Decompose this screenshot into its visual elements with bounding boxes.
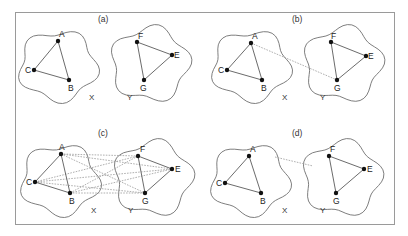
node-label-G: G <box>142 196 149 206</box>
node-C <box>33 180 37 184</box>
set-label-x: X <box>282 206 288 215</box>
node-label-E: E <box>174 50 180 60</box>
node-B <box>67 78 71 82</box>
node-label-G: G <box>333 196 340 206</box>
set-label-y: Y <box>320 206 326 215</box>
node-B <box>259 191 263 195</box>
node-A <box>56 39 60 43</box>
node-F <box>327 154 331 158</box>
node-label-C: C <box>25 65 31 75</box>
node-F <box>136 154 140 158</box>
node-B <box>68 191 72 195</box>
node-label-E: E <box>368 51 374 61</box>
node-label-E: E <box>367 164 373 174</box>
node-G <box>142 78 146 82</box>
set-label-y: Y <box>320 93 326 102</box>
panel-label: (d) <box>292 128 303 138</box>
node-C <box>223 181 227 185</box>
node-A <box>247 154 251 158</box>
panel-label: (a) <box>98 14 109 24</box>
node-label-A: A <box>59 29 65 39</box>
node-E <box>362 167 366 171</box>
node-label-A: A <box>252 31 258 41</box>
node-B <box>260 78 264 82</box>
graph-partition-figure: ACBFEG(a)XYACBFEG(b)XYACBFEG(c)XYACBFEG(… <box>0 0 408 236</box>
node-E <box>170 167 174 171</box>
node-G <box>335 78 339 82</box>
node-C <box>225 68 229 72</box>
panel-label: (c) <box>98 128 108 138</box>
node-C <box>32 68 36 72</box>
node-label-B: B <box>69 196 75 206</box>
node-label-B: B <box>260 196 266 206</box>
node-label-B: B <box>261 83 267 93</box>
node-label-F: F <box>331 31 336 41</box>
node-label-B: B <box>68 83 74 93</box>
set-label-x: X <box>89 93 95 102</box>
node-G <box>143 191 147 195</box>
set-label-x: X <box>282 93 288 102</box>
node-G <box>334 191 338 195</box>
node-label-F: F <box>330 144 335 154</box>
node-label-A: A <box>250 144 256 154</box>
node-label-G: G <box>334 83 341 93</box>
node-A <box>59 152 63 156</box>
node-label-A: A <box>59 142 65 152</box>
node-label-C: C <box>216 178 222 188</box>
set-label-x: X <box>91 206 97 215</box>
panel-label: (b) <box>292 14 303 24</box>
node-A <box>249 41 253 45</box>
set-label-y: Y <box>127 93 133 102</box>
node-label-C: C <box>218 65 224 75</box>
node-label-F: F <box>138 31 143 41</box>
node-label-E: E <box>175 164 181 174</box>
node-label-C: C <box>26 177 32 187</box>
node-label-F: F <box>140 144 145 154</box>
node-label-G: G <box>140 83 147 93</box>
set-label-y: Y <box>128 206 134 215</box>
